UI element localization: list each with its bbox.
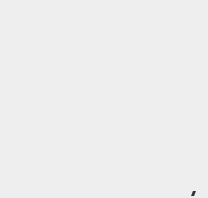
coordinate-grid-chart	[0, 0, 208, 198]
